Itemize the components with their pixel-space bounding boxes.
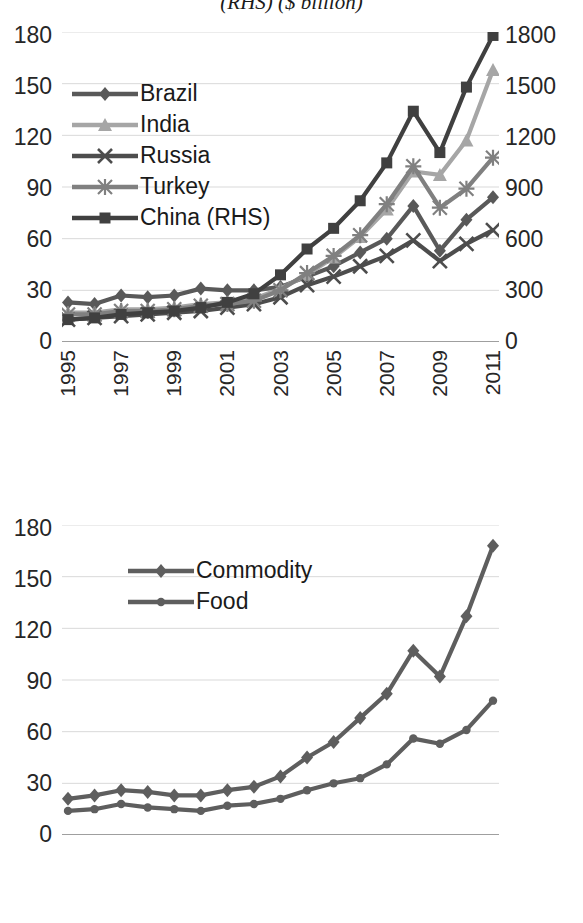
- x-tick-2011: 2011: [482, 350, 503, 395]
- legend-marker-square-icon: [72, 209, 138, 227]
- chart-fdi-outflows-brics: (RHS) ($ billion) 180 150 120 90 60 30 0…: [0, 0, 583, 500]
- chart1-ytick-0: 0: [0, 330, 52, 353]
- legend-marker-diamond-icon: [128, 562, 194, 580]
- chart2-ytick-60: 60: [0, 721, 52, 744]
- chart2-ytick-180: 180: [0, 517, 52, 540]
- chart2-ytick-120: 120: [0, 619, 52, 642]
- legend-item-commodity[interactable]: Commodity: [128, 555, 312, 586]
- chart1-ytick-180: 180: [0, 24, 52, 47]
- legend-label: Brazil: [140, 82, 198, 105]
- chart2-ytick-90: 90: [0, 670, 52, 693]
- chart2-legend: CommodityFood: [128, 555, 312, 617]
- legend-label: India: [140, 113, 190, 136]
- chart1-y2tick-1500: 1500: [505, 75, 583, 98]
- legend-item-brazil[interactable]: Brazil: [72, 78, 270, 109]
- legend-label: Turkey: [140, 175, 209, 198]
- legend-item-india[interactable]: India: [72, 109, 270, 140]
- legend-label: Russia: [140, 144, 210, 167]
- chart1-y2tick-0: 0: [505, 330, 583, 353]
- legend-label: Commodity: [196, 559, 312, 582]
- chart1-y2tick-600: 600: [505, 228, 583, 251]
- x-tick-1995: 1995: [57, 350, 78, 397]
- chart2-ytick-30: 30: [0, 772, 52, 795]
- chart1-y2tick-1800: 1800: [505, 24, 583, 47]
- legend-marker-triangle-icon: [72, 116, 138, 134]
- legend-item-russia[interactable]: Russia: [72, 140, 270, 171]
- x-tick-2005: 2005: [323, 350, 344, 397]
- chart1-title: (RHS) ($ billion): [0, 0, 583, 15]
- x-tick-2009: 2009: [429, 350, 450, 397]
- chart1-ytick-60: 60: [0, 228, 52, 251]
- chart1-ytick-150: 150: [0, 75, 52, 98]
- chart1-ytick-120: 120: [0, 126, 52, 149]
- chart1-legend: BrazilIndiaRussiaTurkeyChina (RHS): [72, 78, 270, 233]
- legend-marker-asterisk-icon: [72, 178, 138, 196]
- chart1-y2tick-900: 900: [505, 177, 583, 200]
- chart1-ytick-30: 30: [0, 279, 52, 302]
- chart1-y2tick-1200: 1200: [505, 126, 583, 149]
- x-tick-2007: 2007: [376, 350, 397, 397]
- x-tick-1997: 1997: [110, 350, 131, 397]
- legend-item-china-rhs[interactable]: China (RHS): [72, 202, 270, 233]
- x-tick-1999: 1999: [163, 350, 184, 397]
- legend-label: Food: [196, 590, 248, 613]
- legend-item-food[interactable]: Food: [128, 586, 312, 617]
- chart1-y2tick-300: 300: [505, 279, 583, 302]
- x-tick-2001: 2001: [216, 350, 237, 397]
- x-tick-2003: 2003: [270, 350, 291, 397]
- legend-marker-diamond-icon: [72, 85, 138, 103]
- legend-marker-dot-icon: [128, 593, 194, 611]
- chart2-ytick-0: 0: [0, 823, 52, 846]
- legend-marker-cross-icon: [72, 147, 138, 165]
- chart1-ytick-90: 90: [0, 177, 52, 200]
- legend-item-turkey[interactable]: Turkey: [72, 171, 270, 202]
- chart-commodity-food: 180 150 120 90 60 30 0 19951997199920012…: [0, 505, 583, 923]
- legend-label: China (RHS): [140, 206, 270, 229]
- chart-page: (RHS) ($ billion) 180 150 120 90 60 30 0…: [0, 0, 583, 923]
- chart2-ytick-150: 150: [0, 568, 52, 591]
